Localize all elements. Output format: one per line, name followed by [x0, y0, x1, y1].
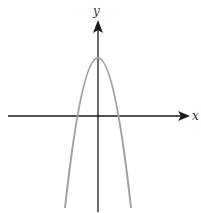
parabola-graph: x y: [0, 0, 201, 213]
x-axis-label: x: [192, 109, 199, 123]
y-axis-label: y: [92, 4, 100, 18]
